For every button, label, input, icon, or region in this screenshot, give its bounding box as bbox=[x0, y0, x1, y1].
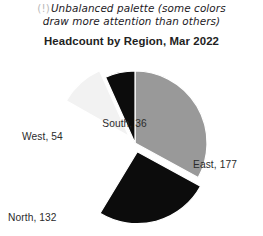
chart-title: Headcount by Region, Mar 2022 bbox=[0, 35, 263, 47]
slice-label-west: West, 54 bbox=[22, 131, 63, 142]
pie-chart: South, 36 West, 54 East, 177 North, 132 … bbox=[0, 55, 263, 236]
note-line-1: Unbalanced palette (some colors bbox=[51, 2, 226, 14]
slice-label-east: East, 177 bbox=[193, 159, 237, 170]
slice-label-north: North, 132 bbox=[8, 212, 57, 223]
warning-exclamation-icon: (!) bbox=[37, 2, 51, 14]
pie-chart-svg bbox=[0, 55, 263, 236]
note-line-2: draw more attention than others) bbox=[0, 15, 263, 28]
palette-warning-note: (!)Unbalanced palette (some colors draw … bbox=[0, 2, 263, 28]
pie-slice-group bbox=[63, 71, 207, 224]
slice-label-south: South, 36 bbox=[72, 118, 177, 129]
